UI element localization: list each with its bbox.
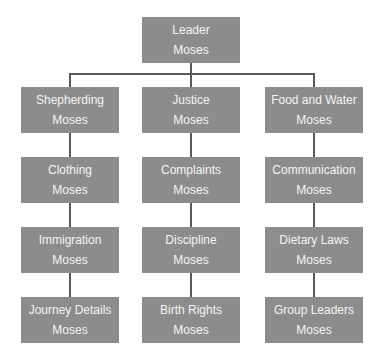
node-title: Clothing — [48, 160, 92, 180]
node-journey-details: Journey Details Moses — [21, 297, 119, 343]
node-birth-rights: Birth Rights Moses — [142, 297, 240, 343]
node-leader: Leader Moses — [142, 17, 240, 63]
node-person: Moses — [173, 40, 208, 60]
node-immigration: Immigration Moses — [21, 227, 119, 273]
node-complaints: Complaints Moses — [142, 157, 240, 203]
node-person: Moses — [296, 180, 331, 200]
node-person: Moses — [173, 320, 208, 340]
node-person: Moses — [52, 110, 87, 130]
node-title: Dietary Laws — [279, 230, 348, 250]
node-group-leaders: Group Leaders Moses — [265, 297, 363, 343]
connector-col1-r2 — [69, 203, 71, 227]
node-title: Food and Water — [271, 90, 357, 110]
node-title: Justice — [172, 90, 209, 110]
node-title: Leader — [172, 20, 209, 40]
node-person: Moses — [52, 180, 87, 200]
connector-col1-r3 — [69, 273, 71, 297]
connector-col3-r1 — [313, 133, 315, 157]
node-person: Moses — [173, 110, 208, 130]
node-person: Moses — [296, 250, 331, 270]
node-title: Immigration — [39, 230, 102, 250]
connector-col2-top — [190, 73, 192, 87]
node-person: Moses — [173, 250, 208, 270]
node-person: Moses — [296, 110, 331, 130]
connector-col2-r3 — [190, 273, 192, 297]
node-title: Discipline — [165, 230, 216, 250]
node-title: Birth Rights — [160, 300, 222, 320]
connector-col1-top — [69, 73, 71, 87]
node-dietary-laws: Dietary Laws Moses — [265, 227, 363, 273]
node-clothing: Clothing Moses — [21, 157, 119, 203]
node-title: Group Leaders — [274, 300, 354, 320]
node-title: Communication — [272, 160, 355, 180]
node-justice: Justice Moses — [142, 87, 240, 133]
connector-col3-top — [313, 73, 315, 87]
node-person: Moses — [296, 320, 331, 340]
node-person: Moses — [173, 180, 208, 200]
node-title: Complaints — [161, 160, 221, 180]
connector-col2-r2 — [190, 203, 192, 227]
connector-col3-r3 — [313, 273, 315, 297]
node-shepherding: Shepherding Moses — [21, 87, 119, 133]
node-person: Moses — [52, 320, 87, 340]
node-title: Shepherding — [36, 90, 104, 110]
connector-col1-r1 — [69, 133, 71, 157]
node-communication: Communication Moses — [265, 157, 363, 203]
node-title: Journey Details — [29, 300, 112, 320]
node-person: Moses — [52, 250, 87, 270]
node-discipline: Discipline Moses — [142, 227, 240, 273]
connector-col3-r2 — [313, 203, 315, 227]
connector-horizontal-bus — [69, 73, 315, 75]
node-food-and-water: Food and Water Moses — [265, 87, 363, 133]
connector-col2-r1 — [190, 133, 192, 157]
